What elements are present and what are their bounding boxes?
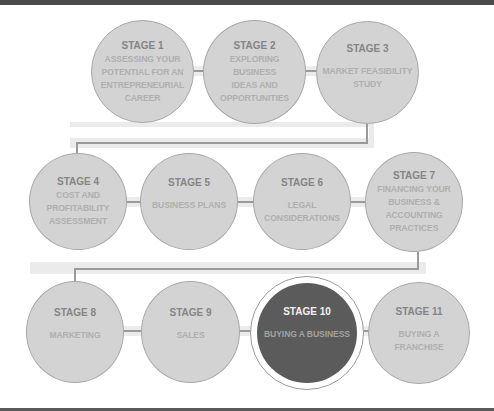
stage-8-node: STAGE 8 MARKETING: [26, 281, 124, 383]
stage-1-node: STAGE 1 ASSESSING YOUR POTENTIAL FOR AN …: [91, 20, 194, 123]
stage-desc-line: ASSESSMENT: [49, 215, 107, 228]
stage-desc-line: ENTREPRENEURIAL: [101, 79, 185, 92]
stage-desc-line: POTENTIAL FOR AN: [102, 66, 184, 79]
stage-desc-line: SALES: [176, 329, 204, 342]
stage-desc-line: COST AND: [56, 189, 100, 202]
stage-desc-line: CONSIDERATIONS: [264, 212, 340, 225]
stage-desc-line: PROFITABILITY: [47, 202, 110, 215]
stage-desc-line: BUSINESS PLANS: [152, 199, 226, 212]
stage-desc-line: PRACTICES: [390, 222, 439, 235]
stage-title: STAGE 2: [233, 39, 275, 52]
stage-7-node: STAGE 7 FINANCING YOUR BUSINESS & ACCOUN…: [365, 152, 463, 252]
stage-desc-line: OPPORTUNITIES: [220, 92, 289, 105]
connector-elbow1-down: [366, 122, 368, 144]
connector-elbow2-across: [74, 268, 419, 270]
stage-5-node: STAGE 5 BUSINESS PLANS: [140, 153, 238, 250]
stage-title: STAGE 11: [395, 305, 442, 318]
connector-elbow1-across: [76, 142, 368, 144]
stage-desc-line: STUDY: [353, 78, 382, 91]
stage-desc-line: MARKET FEASIBILITY: [323, 65, 413, 78]
stage-title: STAGE 6: [281, 176, 323, 189]
stage-desc-line: BUYING A BUSINESS: [264, 328, 350, 341]
stage-title: STAGE 8: [54, 306, 96, 319]
stage-desc-line: IDEAS AND: [231, 79, 277, 92]
stage-2-node: STAGE 2 EXPLORING BUSINESS IDEAS AND OPP…: [203, 20, 306, 124]
stage-10-node-active: STAGE 10 BUYING A BUSINESS: [257, 283, 357, 383]
stage-desc-line: ACCOUNTING: [385, 209, 442, 222]
stage-title: STAGE 5: [168, 176, 210, 189]
top-border-strip: [0, 0, 494, 5]
stage-desc-line: CAREER: [125, 92, 161, 105]
stage-title: STAGE 4: [57, 175, 99, 188]
stage-desc-line: BUSINESS &: [388, 196, 440, 209]
stage-6-node: STAGE 6 LEGAL CONSIDERATIONS: [253, 153, 351, 250]
stage-9-node: STAGE 9 SALES: [141, 281, 240, 383]
stage-3-node: STAGE 3 MARKET FEASIBILITY STUDY: [316, 21, 419, 124]
stage-title: STAGE 10: [283, 305, 331, 318]
stage-desc-line: FINANCING YOUR: [377, 183, 450, 196]
stage-title: STAGE 9: [169, 306, 211, 319]
stage-desc-line: MARKETING: [49, 329, 100, 342]
stage-title: STAGE 7: [393, 169, 435, 182]
stage-desc-line: LEGAL: [288, 199, 317, 212]
stage-title: STAGE 1: [121, 39, 163, 52]
stage-desc-line: EXPLORING: [230, 53, 280, 66]
stage-4-node: STAGE 4 COST AND PROFITABILITY ASSESSMEN…: [29, 153, 127, 250]
stage-desc-line: BUYING A FRANCHISE: [373, 328, 465, 354]
stage-desc-line: ASSESSING YOUR: [105, 53, 181, 66]
stage-11-node: STAGE 11 BUYING A FRANCHISE: [368, 282, 470, 384]
stage-title: STAGE 3: [346, 42, 388, 55]
stage-desc-line: BUSINESS: [233, 66, 276, 79]
